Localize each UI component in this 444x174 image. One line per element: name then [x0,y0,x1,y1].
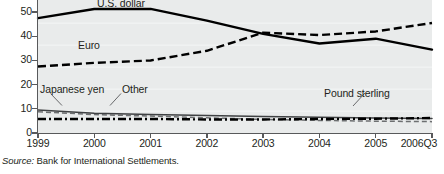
x-tick-label: 2004 [308,138,331,149]
series-label-japanese-yen: Japanese yen [40,84,104,95]
x-tick-label: 2000 [83,138,106,149]
x-tick-label: 2003 [252,138,275,149]
y-tick [32,11,38,12]
y-tick-label: 40 [21,30,32,40]
y-tick [32,84,38,85]
series-label-euro: Euro [78,40,100,51]
x-axis-line [37,133,433,134]
y-tick-label: 20 [21,79,32,89]
y-tick [32,108,38,109]
x-tick-label: 2006Q3 [401,138,437,149]
y-tick [32,36,38,37]
chart-figure: 01020304050 1999200020012002200320042005… [0,0,444,174]
y-tick-label: 50 [21,6,32,16]
y-tick [32,60,38,61]
y-axis-line [37,0,38,134]
x-tick-label: 2002 [195,138,218,149]
x-tick-label: 2001 [139,138,162,149]
series-label-other: Other [122,84,148,95]
y-tick-label: 10 [21,103,32,113]
x-tick-label: 1999 [27,138,50,149]
series-label-pound-sterling: Pound sterling [324,88,390,99]
x-tick-label: 2005 [364,138,387,149]
source-note: Source: Bank for International Settlemen… [2,155,179,166]
leader-other [110,94,121,106]
source-text: Bank for International Settlements. [37,155,179,166]
data-series-layer [38,0,432,133]
series-label-us-dollar: U.S. dollar [97,0,145,9]
y-tick-label: 30 [21,54,32,64]
plot-area [38,0,432,133]
source-label: Source: [2,155,34,166]
y-tick-label: 0 [26,127,32,137]
leader-japanese-yen [51,94,63,106]
